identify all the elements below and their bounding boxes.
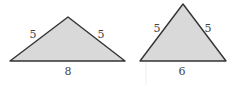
- triangle-2-left-side-label: 5: [154, 22, 161, 35]
- triangle-2-base-label: 6: [179, 65, 186, 78]
- triangle-2: 5 5 6: [140, 4, 226, 85]
- triangle-1-left-side-label: 5: [30, 28, 37, 41]
- triangle-1-shape: [10, 17, 125, 61]
- triangle-2-right-side-label: 5: [205, 22, 212, 35]
- triangle-1-right-side-label: 5: [98, 28, 105, 41]
- triangle-1: 5 5 8: [10, 17, 125, 78]
- triangle-1-base-label: 8: [65, 65, 72, 78]
- triangles-diagram: 5 5 8 5 5 6: [0, 0, 241, 87]
